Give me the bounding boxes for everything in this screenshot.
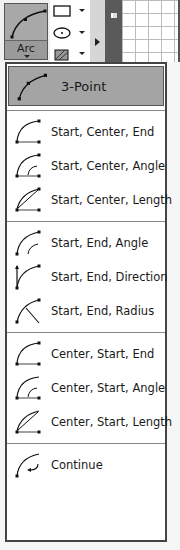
arc-center-start-angle-icon — [13, 373, 43, 403]
panel-pin-icon — [105, 0, 122, 20]
draw-tools — [50, 0, 90, 62]
menu-separator — [7, 221, 165, 222]
menu-item-3-point[interactable]: 3-Point — [8, 66, 164, 106]
arc-start-center-angle-icon — [13, 151, 43, 181]
panel-strip — [105, 0, 122, 62]
menu-item-start-end-angle[interactable]: Start, End, Angle — [7, 226, 165, 260]
menu-item-start-center-end[interactable]: Start, Center, End — [7, 115, 165, 149]
menu-item-center-start-angle[interactable]: Center, Start, Angle — [7, 371, 165, 405]
menu-item-start-end-radius[interactable]: Start, End, Radius — [7, 294, 165, 328]
chevron-down-icon — [79, 52, 85, 55]
menu-item-center-start-length[interactable]: Center, Start, Length — [7, 405, 165, 439]
arc-start-center-end-icon — [13, 117, 43, 147]
arc-start-end-angle-icon — [13, 228, 43, 258]
arc-start-center-length-icon — [13, 185, 43, 215]
arc-start-end-radius-icon — [13, 296, 43, 326]
menu-separator — [7, 110, 165, 111]
ellipse-icon — [52, 26, 74, 40]
expand-arrow-icon — [95, 38, 100, 46]
menu-item-start-center-length[interactable]: Start, Center, Length — [7, 183, 165, 217]
menu-item-continue[interactable]: Continue — [7, 448, 165, 482]
arc-3point-icon — [15, 70, 47, 102]
arc-center-start-length-icon — [13, 407, 43, 437]
arc-start-end-direction-icon — [13, 262, 43, 292]
arc-continue-icon — [13, 450, 43, 480]
chevron-down-icon — [79, 9, 85, 12]
chevron-down-icon — [24, 55, 30, 58]
rectangle-tool[interactable] — [52, 3, 88, 19]
panel-expander[interactable] — [90, 0, 105, 62]
drawing-canvas[interactable] — [122, 0, 180, 62]
arc-button[interactable] — [4, 3, 48, 41]
menu-separator — [7, 332, 165, 333]
arc-dropdown-menu: 3-Point Start, Center, End Start, Center… — [5, 62, 167, 542]
arc-button-label: Arc — [17, 42, 35, 55]
arc-dropdown-button[interactable]: Arc — [4, 40, 48, 60]
chevron-down-icon — [79, 31, 85, 34]
hatch-tool[interactable] — [52, 46, 88, 62]
menu-item-start-end-direction[interactable]: Start, End, Direction — [7, 260, 165, 294]
rectangle-icon — [52, 4, 74, 18]
menu-separator — [7, 443, 165, 444]
menu-item-start-center-angle[interactable]: Start, Center, Angle — [7, 149, 165, 183]
arc-3point-icon — [5, 4, 49, 42]
ribbon-draw-panel: Arc — [0, 0, 180, 62]
menu-item-center-start-end[interactable]: Center, Start, End — [7, 337, 165, 371]
hatch-icon — [52, 47, 74, 61]
arc-center-start-end-icon — [13, 339, 43, 369]
ellipse-tool[interactable] — [52, 25, 88, 41]
